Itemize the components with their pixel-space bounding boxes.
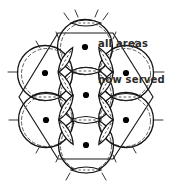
- lens-rim-top: [71, 20, 101, 26]
- lens-rim-bottom: [71, 167, 101, 173]
- caption-line-1: all areas: [98, 38, 172, 50]
- center-dot-upper-left: [42, 70, 48, 76]
- tick-bottom-left: [66, 173, 70, 180]
- center-dot-bottom: [83, 142, 89, 148]
- tick-top-left: [64, 13, 69, 20]
- center-dot-center: [83, 92, 89, 98]
- figure-canvas: all areas now served: [0, 0, 178, 184]
- tick-bottom-right: [102, 173, 106, 180]
- tick-top-mid-l: [75, 10, 78, 17]
- tick-lowerleft-a: [36, 146, 40, 153]
- center-dot-lower-right: [123, 117, 129, 123]
- caption-line-2: now served: [98, 74, 172, 86]
- tick-lowerright-a: [132, 146, 136, 153]
- center-dot-lower-left: [43, 117, 49, 123]
- figure-caption: all areas now served: [98, 14, 172, 110]
- center-dot-top: [82, 44, 88, 50]
